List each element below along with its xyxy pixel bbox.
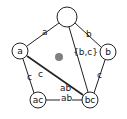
- edge-label-top-a: a: [42, 27, 48, 37]
- node-ac: ac: [30, 92, 46, 108]
- edge-label-top-b: b: [86, 29, 92, 39]
- edge-label-b-bc: c: [97, 70, 102, 80]
- diagram-svg: a b {b,c} c c ab c ab a b ac bc: [0, 0, 127, 119]
- node-label-ac: ac: [33, 95, 44, 105]
- edge-label-a-bc-c: c: [38, 69, 43, 79]
- node-label-a: a: [17, 46, 23, 56]
- node-a: a: [12, 43, 28, 59]
- edge-label-a-bc-ab: ab: [60, 83, 72, 93]
- edge-a-bc: [27, 56, 83, 95]
- node-b: b: [100, 44, 116, 60]
- edge-label-ac-bc: ab: [61, 93, 73, 103]
- center-dot: [55, 53, 63, 61]
- node-top: [57, 7, 77, 27]
- edge-label-top-bc: {b,c}: [73, 47, 98, 57]
- node-label-b: b: [105, 47, 111, 57]
- edge-label-a-ac: c: [27, 72, 32, 82]
- graph-diagram: a b {b,c} c c ab c ab a b ac bc: [0, 0, 127, 119]
- node-label-bc: bc: [85, 95, 96, 105]
- node-bc: bc: [82, 92, 98, 108]
